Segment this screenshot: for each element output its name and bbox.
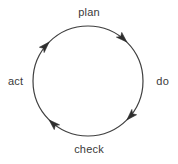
cycle-label-check: check: [0, 143, 178, 156]
cycle-circle: [33, 26, 143, 136]
cycle-label-plan: plan: [0, 6, 178, 19]
cycle-label-do: do: [156, 75, 169, 88]
cycle-label-act: act: [8, 75, 23, 88]
pdca-cycle-diagram: plan do check act: [0, 0, 178, 164]
cycle-graphic: [0, 0, 178, 164]
